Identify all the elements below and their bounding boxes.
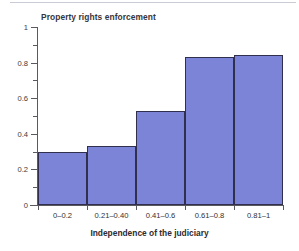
chart-title: Property rights enforcement bbox=[41, 12, 156, 22]
y-tick-label: 0.4 bbox=[17, 129, 28, 138]
x-tick bbox=[283, 205, 284, 210]
y-tick-minor bbox=[33, 152, 37, 153]
y-tick-minor bbox=[33, 116, 37, 117]
plot-area bbox=[38, 27, 283, 205]
y-axis-ticks: 00.20.40.60.81 bbox=[0, 0, 37, 251]
y-tick-major bbox=[31, 27, 37, 28]
y-tick-minor bbox=[33, 80, 37, 81]
bar bbox=[38, 152, 87, 205]
y-tick-major bbox=[31, 205, 37, 206]
y-tick-major bbox=[31, 169, 37, 170]
x-tick bbox=[136, 205, 137, 210]
x-tick bbox=[234, 205, 235, 210]
y-tick-major bbox=[31, 98, 37, 99]
y-tick-minor bbox=[33, 45, 37, 46]
x-tick-label: 0.81–1 bbox=[247, 211, 270, 220]
bar bbox=[87, 146, 136, 205]
bar bbox=[185, 57, 234, 205]
y-tick-major bbox=[31, 63, 37, 64]
x-tick bbox=[87, 205, 88, 210]
y-tick-label: 0 bbox=[24, 201, 28, 210]
x-axis-line bbox=[30, 205, 284, 206]
bar bbox=[234, 55, 283, 205]
y-tick-label: 0.6 bbox=[17, 94, 28, 103]
y-tick-label: 1 bbox=[24, 23, 28, 32]
x-tick bbox=[38, 205, 39, 210]
y-tick-label: 0.8 bbox=[17, 58, 28, 67]
x-tick-label: 0–0.2 bbox=[53, 211, 72, 220]
y-tick-minor bbox=[33, 187, 37, 188]
x-tick-label: 0.21–0.40 bbox=[95, 211, 129, 220]
y-tick-major bbox=[31, 134, 37, 135]
chart-figure: Property rights enforcement 00.20.40.60.… bbox=[0, 0, 299, 251]
x-tick-label: 0.41–0.6 bbox=[146, 211, 176, 220]
bar bbox=[136, 111, 185, 205]
x-axis-title: Independence of the judiciary bbox=[0, 228, 299, 238]
top-divider bbox=[10, 2, 296, 3]
x-tick-label: 0.61–0.8 bbox=[195, 211, 225, 220]
y-tick-label: 0.2 bbox=[17, 165, 28, 174]
x-tick bbox=[185, 205, 186, 210]
